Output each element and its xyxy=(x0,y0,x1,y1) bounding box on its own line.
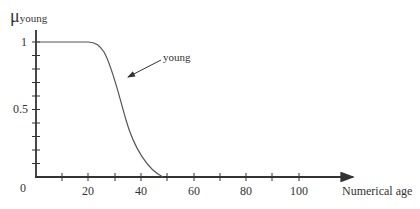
y-tick-label-0.5: 0.5 xyxy=(13,102,28,117)
x-tick-label-20: 20 xyxy=(82,184,94,199)
x-tick-label-80: 80 xyxy=(240,184,252,199)
annotation-arrow xyxy=(128,60,161,77)
young-membership-curve xyxy=(36,42,163,177)
x-axis-title: Numerical age xyxy=(342,184,412,199)
y-tick-label-1: 1 xyxy=(21,35,27,50)
x-tick-label-60: 60 xyxy=(188,184,200,199)
membership-chart xyxy=(0,0,420,209)
curve-annotation-label: young xyxy=(163,51,191,63)
x-tick-label-40: 40 xyxy=(135,184,147,199)
x-tick-label-100: 100 xyxy=(290,184,308,199)
y-tick-label-0: 0 xyxy=(20,181,26,196)
